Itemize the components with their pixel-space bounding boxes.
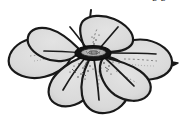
figure-canvas: pp: [0, 0, 189, 121]
flower-center: [75, 46, 111, 61]
corner-ink-mark: pp: [152, 0, 169, 1]
flower-drawing: [0, 0, 189, 121]
